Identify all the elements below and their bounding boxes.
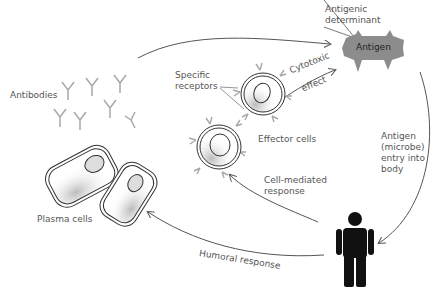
label-antigen-entry: Antigen (microbe) entry into body	[381, 131, 425, 175]
antibodies-icon	[54, 75, 135, 130]
label-cell-mediated-response: Cell-mediated response	[264, 175, 327, 197]
label-specific-receptors: Specific receptors	[175, 70, 218, 92]
label-antigen: Antigen	[356, 42, 391, 53]
effector-cell-upper	[233, 63, 292, 122]
label-antibodies: Antibodies	[10, 90, 58, 101]
effector-cell-lower	[189, 117, 246, 178]
person-icon	[336, 212, 374, 287]
label-effector-cells: Effector cells	[258, 134, 316, 145]
label-plasma-cells: Plasma cells	[37, 214, 92, 225]
arrow-humoral	[148, 212, 324, 256]
arrow-to-antigen	[138, 38, 330, 58]
label-antigenic-determinant: Antigenic determinant	[325, 4, 381, 26]
